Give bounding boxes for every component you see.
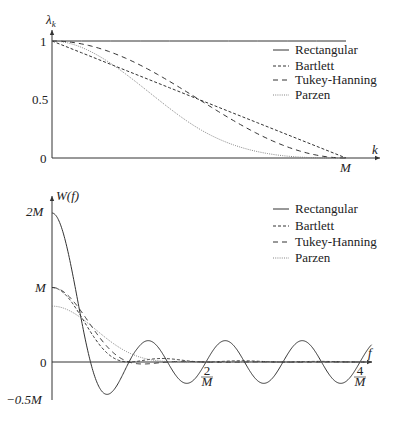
top-ylabel: λk bbox=[45, 12, 57, 29]
legend-label-rectangular: Rectangular bbox=[295, 201, 358, 216]
bottom-ytick-0: 0 bbox=[40, 355, 47, 370]
svg-text:M: M bbox=[354, 374, 367, 389]
legend-label-tukey-hanning: Tukey-Hanning bbox=[295, 72, 377, 87]
top-plot: λk k 1 0.5 0 M Rectangular Bartlett Tuke… bbox=[32, 12, 380, 175]
bottom-series-parzen bbox=[52, 306, 372, 362]
top-ytick-05: 0.5 bbox=[32, 92, 48, 107]
legend-label-rectangular: Rectangular bbox=[295, 42, 358, 57]
legend-label-parzen: Parzen bbox=[295, 87, 331, 102]
legend-label-parzen: Parzen bbox=[295, 250, 331, 265]
bottom-legend: Rectangular Bartlett Tukey-Hanning Parze… bbox=[273, 201, 377, 265]
legend-label-tukey-hanning: Tukey-Hanning bbox=[295, 234, 377, 249]
top-xtick-M: M bbox=[339, 160, 352, 175]
top-xlabel: k bbox=[372, 142, 378, 157]
bottom-series-bartlett bbox=[52, 288, 372, 363]
top-legend: Rectangular Bartlett Tukey-Hanning Parze… bbox=[273, 42, 377, 102]
svg-text:M: M bbox=[201, 374, 214, 389]
bottom-xtick-4overM: 4 M bbox=[354, 363, 367, 389]
top-ytick-1: 1 bbox=[40, 34, 47, 49]
bottom-ytick-2M: 2M bbox=[26, 204, 45, 219]
bottom-ytick-neg05M: −0.5M bbox=[6, 392, 43, 407]
bottom-ylabel: W(f) bbox=[56, 188, 79, 203]
bottom-plot: W(f) f 2M M 0 −0.5M 2 M 4 M Rectangular … bbox=[6, 188, 377, 407]
figure: λk k 1 0.5 0 M Rectangular Bartlett Tuke… bbox=[0, 0, 397, 421]
legend-label-bartlett: Bartlett bbox=[295, 218, 334, 233]
bottom-ytick-M: M bbox=[34, 280, 47, 295]
top-ytick-0: 0 bbox=[40, 151, 47, 166]
legend-label-bartlett: Bartlett bbox=[295, 58, 334, 73]
bottom-xtick-2overM: 2 M bbox=[201, 363, 214, 389]
